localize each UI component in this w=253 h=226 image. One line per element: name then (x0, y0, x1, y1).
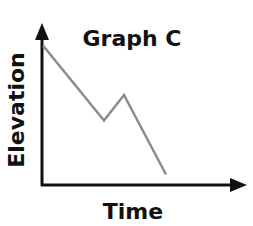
x-axis (41, 178, 247, 192)
elevation-time-chart: Graph C Time Elevation (0, 0, 253, 226)
chart-title: Graph C (83, 26, 182, 51)
x-axis-label: Time (103, 199, 163, 224)
elevation-line (43, 46, 166, 175)
y-axis-arrow-icon (35, 23, 49, 40)
y-axis-label: Elevation (4, 52, 29, 168)
x-axis-arrow-icon (230, 178, 247, 192)
y-axis (35, 23, 49, 186)
